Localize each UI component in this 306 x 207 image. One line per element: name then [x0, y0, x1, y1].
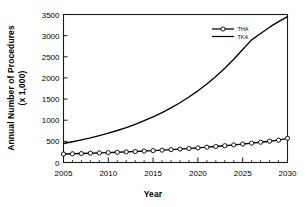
x-tick-label: 2010 [99, 169, 117, 178]
x-tick-label: 2015 [144, 169, 162, 178]
y-tick-label: 500 [46, 137, 60, 146]
series-marker [196, 146, 200, 150]
series-marker [250, 141, 254, 145]
y-tick-label: 1000 [42, 116, 60, 125]
series-marker [142, 149, 146, 153]
x-axis-title: Year [144, 189, 163, 199]
series-marker [187, 146, 191, 150]
x-tick-label: 2030 [279, 169, 297, 178]
series-marker [124, 150, 128, 154]
series-marker [115, 150, 119, 154]
series-marker [214, 144, 218, 148]
x-tick-label: 2005 [55, 169, 73, 178]
series-marker [232, 143, 236, 147]
series-marker [241, 142, 245, 146]
series-marker [160, 148, 164, 152]
series-marker [133, 149, 137, 153]
series-marker [276, 138, 280, 142]
x-tick-label: 2020 [189, 169, 207, 178]
y-tick-label: 2000 [42, 74, 60, 83]
series-marker [267, 139, 271, 143]
x-tick-label: 2025 [234, 169, 252, 178]
series-marker [61, 152, 65, 156]
series-marker [106, 151, 110, 155]
series-marker [285, 136, 289, 140]
series-marker [205, 145, 209, 149]
legend-marker-sample [221, 27, 225, 31]
y-tick-label: 3500 [42, 11, 60, 20]
series-marker [259, 140, 263, 144]
y-tick-label: 3000 [42, 32, 60, 41]
series-marker [151, 149, 155, 153]
y-tick-label: 1500 [42, 95, 60, 104]
legend-label: THA [238, 26, 249, 32]
y-tick-label: 0 [55, 159, 60, 168]
y-axis-title-line2: (x 1,000) [17, 70, 27, 105]
y-tick-label: 2500 [42, 53, 60, 62]
series-marker [79, 151, 83, 155]
series-marker [178, 147, 182, 151]
series-marker [223, 144, 227, 148]
chart-figure: 0500100015002000250030003500 20052010201… [0, 0, 306, 207]
procedures-projection-chart: 0500100015002000250030003500 20052010201… [0, 0, 306, 207]
series-marker [88, 151, 92, 155]
series-marker [169, 148, 173, 152]
y-axis-title-line1: Annual Number of Procedures [6, 25, 16, 151]
series-marker [97, 151, 101, 155]
series-marker [70, 152, 74, 156]
legend-label: TKA [238, 34, 249, 40]
